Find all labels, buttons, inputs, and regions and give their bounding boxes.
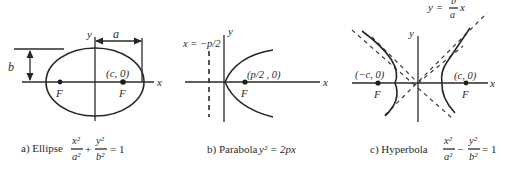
hyperbola-y-axis-label: y xyxy=(408,27,414,39)
hyperbola-panel: x y F (−c, 0) F (c, 0) y = b a x xyxy=(352,0,495,122)
hyperbola-focus-right-coord: (c, 0) xyxy=(454,70,477,82)
hyperbola-focus-right-label: F xyxy=(461,88,469,100)
hyperbola-asymptote-positive xyxy=(385,13,487,115)
caption-ellipse: a) Ellipse x² a² + y² b² = 1 xyxy=(21,135,124,162)
ellipse-focus-left-label: F xyxy=(55,87,63,99)
caption-hyperbola: c) Hyperbola x² a² − y² b² = 1 xyxy=(370,135,496,162)
asymptote-lhs: y = xyxy=(427,1,443,13)
caption-parabola-title: b) Parabola xyxy=(207,143,258,156)
ellipse-eq-term2-num: y² xyxy=(95,135,105,146)
parabola-focus-label: F xyxy=(240,87,248,99)
ellipse-x-axis-label: x xyxy=(156,76,162,88)
parabola-x-axis-label: x xyxy=(322,76,328,88)
asymptote-var: x xyxy=(459,1,465,13)
ellipse-eq-term2-den: b² xyxy=(96,151,105,162)
hyperbola-asymptote-equation: y = b a x xyxy=(427,0,465,20)
caption-parabola: b) Parabola y² = 2px xyxy=(207,143,296,156)
parabola-focus xyxy=(242,79,247,84)
caption-ellipse-title: a) Ellipse xyxy=(21,142,63,155)
parabola-eq: y² = 2px xyxy=(258,143,296,155)
hyperbola-focus-left xyxy=(375,80,380,85)
ellipse-eq-rhs: = 1 xyxy=(110,143,124,155)
ellipse-focus-right xyxy=(120,79,126,85)
ellipse-panel: x y b a F F (c, 0) xyxy=(8,27,162,121)
hyperbola-eq-term2-num: y² xyxy=(468,135,478,146)
conic-sections-figure: x y b a F F (c, 0) x y x = −p/2 F (p/2 ,… xyxy=(0,0,509,175)
parabola-directrix-label: x = −p/2 xyxy=(182,38,221,49)
hyperbola-eq-operator: − xyxy=(457,143,463,155)
ellipse-focus-coord: (c, 0) xyxy=(106,67,130,80)
ellipse-eq-term1-num: x² xyxy=(71,135,81,146)
ellipse-y-axis-label: y xyxy=(86,28,92,40)
ellipse-eq-operator: + xyxy=(85,143,91,155)
ellipse-focus-right-label: F xyxy=(118,87,126,99)
parabola-curve xyxy=(225,50,273,117)
ellipse-a-label: a xyxy=(113,27,119,41)
hyperbola-focus-left-label: F xyxy=(373,88,381,100)
parabola-y-axis-label: y xyxy=(227,25,233,37)
hyperbola-eq-rhs: = 1 xyxy=(482,143,496,155)
asymptote-fraction-num: b xyxy=(451,0,456,6)
hyperbola-focus-right xyxy=(464,81,469,86)
parabola-panel: x y x = −p/2 F (p/2 , 0) xyxy=(182,25,328,122)
ellipse-b-label: b xyxy=(8,60,14,74)
hyperbola-eq-term1-num: x² xyxy=(443,135,453,146)
hyperbola-eq-term1-den: a² xyxy=(444,151,453,162)
ellipse-focus-left xyxy=(58,80,63,85)
hyperbola-focus-left-coord: (−c, 0) xyxy=(355,69,385,81)
hyperbola-x-axis-label: x xyxy=(489,77,495,89)
asymptote-fraction-den: a xyxy=(450,9,455,20)
parabola-focus-coord: (p/2 , 0) xyxy=(247,69,281,81)
ellipse-eq-term1-den: a² xyxy=(72,151,81,162)
caption-hyperbola-title: c) Hyperbola xyxy=(370,143,428,156)
hyperbola-eq-term2-den: b² xyxy=(469,151,478,162)
